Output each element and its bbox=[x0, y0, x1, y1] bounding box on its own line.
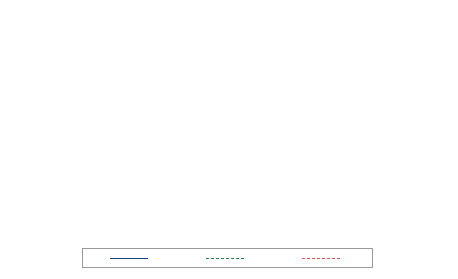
legend-line-dashed-icon bbox=[206, 258, 244, 259]
legend-line-solid-icon bbox=[110, 258, 148, 259]
legend-item-0 bbox=[206, 258, 249, 259]
legend-item-minus30 bbox=[110, 258, 153, 259]
figure bbox=[0, 0, 458, 279]
legend-item-60 bbox=[302, 258, 345, 259]
legend-line-dashdot-icon bbox=[302, 258, 340, 259]
legend bbox=[82, 248, 373, 268]
